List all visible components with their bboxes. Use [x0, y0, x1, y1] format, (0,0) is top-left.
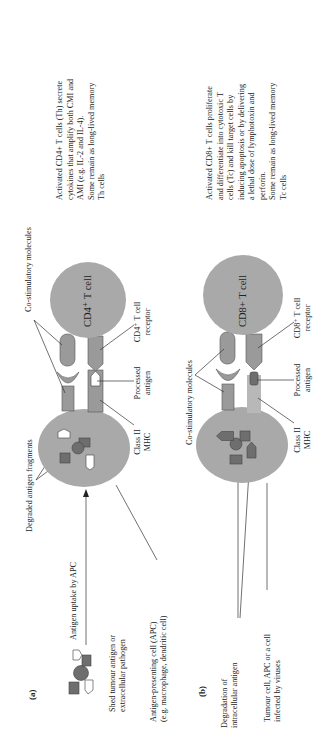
- svg-text:Tumour cell, APC or a cell: Tumour cell, APC or a cell: [263, 633, 272, 722]
- svg-text:a lethal dose of lymphotoxin a: a lethal dose of lymphotoxin and: [247, 92, 256, 200]
- source-label: Shed tumour antigen or extracellular pat…: [108, 635, 127, 712]
- costim-label: Co-stimulatory molecules: [24, 227, 33, 312]
- svg-text:Degradation of: Degradation of: [220, 678, 229, 728]
- svg-text:Antigen-presenting cell (APC): Antigen-presenting cell (APC): [149, 621, 158, 722]
- svg-text:antigen: antigen: [143, 371, 152, 395]
- svg-text:Class II: Class II: [293, 427, 302, 453]
- svg-text:AMI (e.g. IL-2 and IL-4).: AMI (e.g. IL-2 and IL-4).: [76, 116, 85, 200]
- apc-label: Antigen-presenting cell (APC) (e.g. macr…: [149, 615, 168, 722]
- svg-text:receptor: receptor: [143, 308, 152, 335]
- free-antigen-cluster-icon: [69, 650, 93, 694]
- degradation-label: Degradation of intracellular antigen: [220, 662, 239, 728]
- cd4-cell-label: CD4⁺ T cell: [82, 275, 93, 327]
- panel-a-label: (a): [27, 690, 37, 701]
- cd4-receptor: [88, 336, 103, 371]
- svg-text:extracellular pathogen: extracellular pathogen: [118, 639, 127, 712]
- svg-text:Some remain as long-lived memo: Some remain as long-lived memory: [87, 82, 96, 200]
- panel-b: (b) Degradation of intracellular antigen…: [185, 82, 312, 728]
- svg-text:and differentiate into cytotox: and differentiate into cytotoxic T: [216, 92, 225, 200]
- svg-text:Tc cells: Tc cells: [279, 175, 288, 200]
- svg-text:Activated CD8+ T cells prolife: Activated CD8+ T cells proliferate: [205, 86, 214, 200]
- cd8-receptor: [246, 334, 262, 370]
- svg-text:Processed: Processed: [133, 367, 142, 400]
- svg-text:Class II: Class II: [133, 429, 142, 455]
- processed-antigen-b: [250, 372, 258, 385]
- fragments-label: Degraded antigen fragments: [25, 439, 34, 532]
- svg-text:perforin.: perforin.: [258, 172, 267, 200]
- svg-text:MHC: MHC: [303, 430, 312, 449]
- panel-a: (a) Shed tumour antigen or extracellular…: [24, 79, 168, 722]
- svg-text:MHC: MHC: [143, 432, 152, 451]
- receptor-label: CD4⁺ T cell receptor: [133, 301, 152, 342]
- svg-text:intracellular antigen: intracellular antigen: [230, 662, 239, 728]
- processed-antigen-label: Processed antigen: [133, 367, 152, 400]
- costim-tcell-stalk: [60, 334, 75, 366]
- svg-text:inducing apoptosis or by deliv: inducing apoptosis or by delivering: [237, 84, 246, 200]
- receptor-label-b: CD8⁺ T cell receptor: [293, 297, 312, 338]
- svg-text:(e.g. macrophage, dendritic ce: (e.g. macrophage, dendritic cell): [159, 615, 168, 722]
- svg-text:cytokines that amplify both CM: cytokines that amplify both CMI and: [66, 79, 75, 200]
- cd4-outcome-text: Activated CD4+ T cells (Th) secrete cyto…: [55, 79, 106, 200]
- svg-text:Some remain as long-lived memo: Some remain as long-lived memory: [268, 82, 277, 200]
- svg-text:Processed: Processed: [293, 364, 302, 397]
- costim-label-b: Co-stimulatory molecules: [185, 360, 194, 445]
- svg-text:Th cells: Th cells: [97, 174, 106, 200]
- svg-text:cells (Tc) and kill target cel: cells (Tc) and kill target cells by: [226, 94, 235, 200]
- svg-text:infected by viruses: infected by viruses: [273, 660, 282, 722]
- figure: (a) Shed tumour antigen or extracellular…: [0, 0, 325, 752]
- cd8-outcome-text: Activated CD8+ T cells proliferate and d…: [205, 82, 288, 200]
- svg-text:Activated CD4+ T cells (Th) se: Activated CD4+ T cells (Th) secrete: [55, 81, 64, 200]
- source-cell-label: Tumour cell, APC or a cell infected by v…: [263, 633, 282, 722]
- svg-text:CD4⁺ T cell: CD4⁺ T cell: [133, 301, 142, 342]
- costim-target-stalk: [222, 384, 234, 410]
- svg-text:CD8⁺ T cell: CD8⁺ T cell: [293, 297, 302, 338]
- costim-cd8-stalk: [220, 332, 235, 364]
- mhc-label-b: Class II MHC: [293, 427, 312, 453]
- svg-text:receptor: receptor: [303, 304, 312, 331]
- costim-cup-b: [216, 369, 240, 381]
- mhc-label: Class II MHC: [133, 429, 152, 455]
- panel-b-label: (b): [197, 686, 207, 697]
- arrowhead-icon: [83, 489, 89, 497]
- cd8-cell-label: CD8+ T cell: [237, 275, 248, 327]
- uptake-label: Antigen uptake by APC: [69, 561, 78, 640]
- svg-text:Shed tumour antigen or: Shed tumour antigen or: [108, 635, 117, 712]
- processed-antigen-label-b: Processed antigen: [293, 364, 312, 397]
- svg-text:antigen: antigen: [303, 368, 312, 392]
